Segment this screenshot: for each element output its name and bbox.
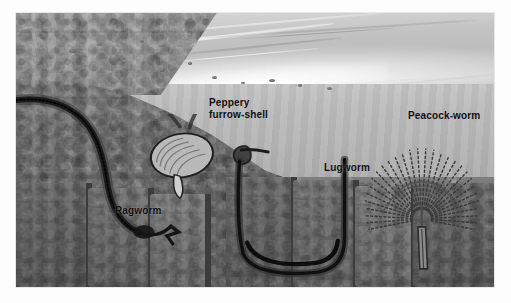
pebble <box>241 82 245 85</box>
illustration-figure: Peppery furrow-shell Ragworm Lugworm Pea… <box>0 0 511 303</box>
pebble <box>140 40 144 43</box>
block-texture <box>88 188 150 287</box>
pebble <box>269 79 275 82</box>
rubble-block <box>226 177 293 287</box>
block-texture <box>413 183 494 287</box>
rubble-block <box>88 188 150 287</box>
block-texture <box>16 183 88 287</box>
label-ragworm: Ragworm <box>115 205 162 217</box>
label-lugworm: Lugworm <box>324 162 370 174</box>
illustration-plate: Peppery furrow-shell Ragworm Lugworm Pea… <box>16 13 494 287</box>
pebble <box>327 87 332 90</box>
label-peacock-worm: Peacock-worm <box>408 110 480 122</box>
pebble <box>59 71 63 74</box>
block-texture <box>293 180 355 287</box>
rubble-block <box>355 186 412 287</box>
block-texture <box>355 186 412 287</box>
label-peppery-furrow-shell: Peppery furrow-shell <box>209 97 268 120</box>
rubble-block <box>16 183 88 287</box>
rubble-block <box>293 180 355 287</box>
pebble <box>298 84 302 87</box>
pebble <box>69 49 76 53</box>
pebble <box>121 57 125 60</box>
rubble-block <box>413 183 494 287</box>
pebble <box>188 62 192 65</box>
sediment-fissure <box>205 194 211 287</box>
block-texture <box>226 177 293 287</box>
pebble <box>212 76 217 79</box>
